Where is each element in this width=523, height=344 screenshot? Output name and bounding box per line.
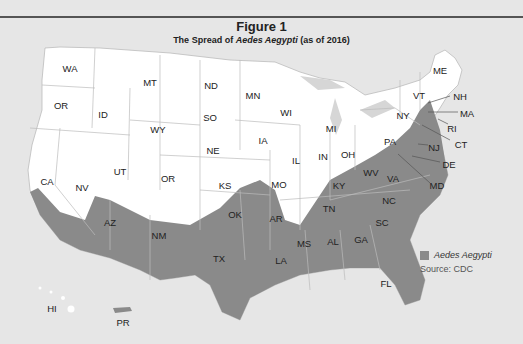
state-label-ga: GA [354,234,368,245]
state-label-oh: OH [341,149,355,160]
source-note: Source: CDC [420,264,492,274]
state-label-la: LA [275,255,287,266]
state-label-ne: NE [206,145,219,156]
state-label-nj: NJ [428,142,440,153]
state-label-co: OR [161,173,175,184]
state-label-il: IL [292,155,300,166]
state-label-me: ME [433,65,447,76]
us-map [0,0,523,344]
state-label-az: AZ [104,217,116,228]
state-label-mi: MI [326,123,337,134]
state-label-ca: CA [40,176,53,187]
state-label-mo: MO [271,179,286,190]
state-label-pr: PR [116,317,129,328]
state-label-tx: TX [213,253,225,264]
state-label-ar: AR [269,213,282,224]
state-label-ct: CT [455,139,468,150]
state-label-ia: IA [259,135,268,146]
legend-swatch [420,251,429,260]
state-label-wi: WI [280,107,292,118]
state-label-ks: KS [219,180,232,191]
state-label-tn: TN [323,203,336,214]
state-label-ut: UT [114,166,127,177]
map-legend: Aedes Aegypti Source: CDC [420,250,492,274]
state-label-hi: HI [47,303,57,314]
state-label-al: AL [327,236,339,247]
state-label-nv: NV [75,182,88,193]
state-label-va: VA [387,173,399,184]
state-label-mt: MT [143,77,157,88]
state-label-ok: OK [228,209,242,220]
state-label-nc: NC [382,195,396,206]
state-label-ky: KY [333,180,346,191]
state-label-ny: NY [396,110,409,121]
legend-entry: Aedes Aegypti [420,250,492,260]
state-label-de: DE [442,159,455,170]
state-label-in: IN [318,151,328,162]
state-label-nm: NM [152,230,167,241]
state-label-md: MD [430,180,445,191]
state-label-id: ID [98,109,108,120]
puerto-rico [113,307,132,313]
state-label-ms: MS [297,238,311,249]
state-label-wy: WY [150,124,165,135]
state-label-wa: WA [63,63,78,74]
state-label-nd: ND [204,80,218,91]
state-label-pa: PA [384,136,396,147]
state-label-or: OR [54,100,68,111]
state-label-wv: WV [363,167,378,178]
state-label-fl: FL [380,278,391,289]
state-label-ri: RI [447,123,457,134]
state-label-vt: VT [413,90,425,101]
state-label-sd: SO [203,112,217,123]
state-label-nh: NH [453,91,467,102]
legend-label: Aedes Aegypti [434,250,492,260]
state-label-sc: SC [375,217,388,228]
state-label-ma: MA [460,108,474,119]
state-label-mn: MN [246,90,261,101]
